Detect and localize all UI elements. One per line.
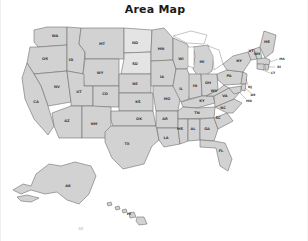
state-label-OH: OH bbox=[205, 81, 211, 85]
state-label-GA: GA bbox=[204, 127, 210, 131]
state-label-VA: VA bbox=[222, 94, 228, 98]
state-label-NJ: NJ bbox=[248, 85, 252, 89]
state-label-DE: DE bbox=[251, 93, 256, 97]
state-label-WV: WV bbox=[211, 89, 218, 93]
state-label-CA: CA bbox=[33, 100, 39, 104]
area-map-figure: Area Map bbox=[0, 0, 308, 241]
state-label-AZ: AZ bbox=[64, 119, 70, 123]
state-label-AR: AR bbox=[162, 117, 168, 121]
state-label-ND: ND bbox=[132, 41, 138, 45]
leader-line-CT bbox=[263, 70, 270, 73]
map-watermark: AK bbox=[78, 226, 84, 231]
state-label-CO: CO bbox=[102, 92, 108, 96]
state-label-WA: WA bbox=[52, 34, 59, 38]
state-label-LA: LA bbox=[163, 136, 168, 140]
state-label-KS: KS bbox=[135, 100, 141, 104]
alaska-aleutian-chain[interactable] bbox=[17, 195, 39, 202]
state-label-KY: KY bbox=[199, 99, 205, 103]
state-label-MN: MN bbox=[158, 47, 165, 51]
state-label-AK: AK bbox=[65, 184, 71, 188]
state-label-MD: MD bbox=[246, 99, 252, 103]
state-label-OK: OK bbox=[136, 117, 142, 121]
state-shape-TX[interactable] bbox=[105, 126, 159, 169]
state-label-IA: IA bbox=[160, 75, 164, 79]
state-label-FL: FL bbox=[219, 149, 224, 153]
state-shapes-layer bbox=[13, 27, 276, 225]
state-label-WY: WY bbox=[97, 71, 104, 75]
us-map-svg[interactable]: WAORIDMTWYNVUTCACOAZNMNDSDNEKSOKTXMNIAMO… bbox=[1, 14, 308, 241]
state-label-WI: WI bbox=[178, 57, 183, 61]
state-shape-ND[interactable] bbox=[124, 28, 152, 53]
state-label-TN: TN bbox=[194, 111, 199, 115]
state-shape-IA[interactable] bbox=[151, 60, 176, 86]
state-shape-CO[interactable] bbox=[93, 86, 119, 107]
state-label-IN: IN bbox=[193, 84, 197, 88]
state-shape-FL[interactable] bbox=[200, 140, 232, 171]
state-label-MT: MT bbox=[99, 42, 106, 46]
state-label-NM: NM bbox=[91, 122, 98, 126]
state-shape-DE[interactable] bbox=[241, 84, 246, 91]
lake-michigan bbox=[188, 47, 194, 68]
leader-line-MD bbox=[239, 92, 246, 99]
state-label-NC: NC bbox=[220, 106, 226, 110]
state-label-NE: NE bbox=[132, 82, 138, 86]
state-label-NY: NY bbox=[236, 59, 242, 63]
state-label-MS: MS bbox=[177, 127, 184, 131]
state-shape-CT[interactable] bbox=[257, 64, 264, 70]
state-label-RI: RI bbox=[277, 65, 281, 69]
state-label-SD: SD bbox=[132, 62, 138, 66]
state-label-UT: UT bbox=[76, 90, 82, 94]
state-label-SC: SC bbox=[215, 116, 221, 120]
state-label-ID: ID bbox=[69, 58, 73, 62]
state-label-TX: TX bbox=[124, 142, 129, 146]
state-shape-WA[interactable] bbox=[34, 27, 67, 47]
state-label-MI: MI bbox=[200, 60, 205, 64]
state-label-MO: MO bbox=[164, 97, 171, 101]
state-shape-MN[interactable] bbox=[151, 28, 173, 61]
state-label-CT: CT bbox=[271, 71, 276, 75]
state-label-NH: NH bbox=[254, 52, 260, 56]
state-label-HI: HI bbox=[127, 212, 131, 216]
state-label-AL: AL bbox=[190, 127, 196, 131]
leader-line-MA bbox=[270, 59, 278, 62]
state-shape-MS[interactable] bbox=[178, 119, 188, 144]
state-shape-ME[interactable] bbox=[260, 31, 276, 58]
state-label-OR: OR bbox=[42, 57, 48, 61]
state-label-PA: PA bbox=[226, 74, 231, 78]
state-label-MA: MA bbox=[279, 57, 285, 61]
state-label-ME: ME bbox=[264, 40, 271, 44]
state-shape-OK[interactable] bbox=[111, 111, 156, 126]
state-label-NV: NV bbox=[54, 85, 60, 89]
